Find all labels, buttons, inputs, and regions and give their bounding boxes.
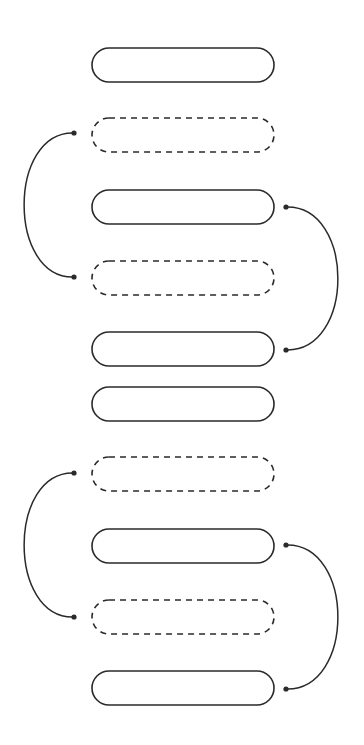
right-connector-arc-2 <box>286 207 338 350</box>
dashed-pill-2 <box>92 118 274 152</box>
solid-pill-6 <box>92 387 274 421</box>
left-connector-arc-3 <box>24 473 74 617</box>
arc-endpoint-dot <box>283 204 288 209</box>
arcs-layer <box>24 130 338 691</box>
dashed-pill-9 <box>92 600 274 634</box>
dashed-pill-7 <box>92 457 274 491</box>
solid-pill-8 <box>92 529 274 563</box>
arc-endpoint-dot <box>283 686 288 691</box>
diagram-svg <box>0 0 364 745</box>
arc-endpoint-dot <box>283 542 288 547</box>
left-connector-arc-1 <box>24 133 74 277</box>
arc-endpoint-dot <box>71 470 76 475</box>
arc-endpoint-dot <box>71 614 76 619</box>
solid-pill-10 <box>92 671 274 705</box>
solid-pill-3 <box>92 190 274 224</box>
dashed-pill-4 <box>92 261 274 295</box>
arc-endpoint-dot <box>71 130 76 135</box>
arc-endpoint-dot <box>71 274 76 279</box>
solid-pill-1 <box>92 48 274 82</box>
solid-pill-5 <box>92 332 274 366</box>
arc-endpoint-dot <box>283 347 288 352</box>
right-connector-arc-4 <box>286 545 338 689</box>
pills-layer <box>92 48 274 705</box>
diagram-canvas <box>0 0 364 745</box>
